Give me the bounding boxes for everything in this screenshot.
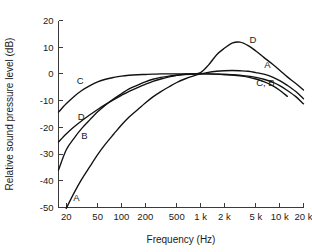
- x-tick-label: 10 k: [271, 211, 289, 222]
- curve-a: [66, 70, 303, 208]
- y-tick-label: -10: [40, 95, 54, 106]
- x-tick-label: 5 k: [250, 211, 263, 222]
- x-axis-ticks: [66, 203, 303, 208]
- curve-d: [59, 42, 304, 142]
- curve-label-d: D: [250, 34, 257, 45]
- y-tick-label: -40: [40, 175, 54, 186]
- y-tick-label: -20: [40, 122, 54, 133]
- curve-label-b: B: [81, 130, 87, 141]
- x-axis-tick-labels: 20501002005001 k2 k5 k10 k20 k: [61, 211, 312, 222]
- curve-label-d: D: [78, 111, 85, 122]
- curve-b: [59, 74, 288, 170]
- curve-label-c: C: [77, 75, 84, 86]
- curve-label-a: A: [264, 59, 271, 70]
- x-tick-label: 2 k: [218, 211, 231, 222]
- x-tick-label: 200: [137, 211, 153, 222]
- x-axis-title: Frequency (Hz): [147, 234, 216, 245]
- y-tick-label: -50: [40, 202, 54, 213]
- curve-label-a: A: [73, 192, 80, 203]
- chart-svg: 20100-10-20-30-40-50 20501002005001 k2 k…: [0, 0, 312, 252]
- y-axis-tick-labels: 20100-10-20-30-40-50: [40, 15, 54, 213]
- curve-labels-group: CDBADAC, B: [73, 34, 274, 203]
- curve-label-cb: C, B: [256, 77, 274, 88]
- x-tick-label: 50: [92, 211, 103, 222]
- weighting-curves-chart: 20100-10-20-30-40-50 20501002005001 k2 k…: [0, 0, 312, 252]
- y-tick-label: 20: [43, 15, 54, 26]
- x-tick-label: 100: [114, 211, 130, 222]
- y-axis-ticks: [59, 21, 64, 208]
- x-tick-label: 1 k: [194, 211, 207, 222]
- x-tick-label: 20 k: [295, 211, 312, 222]
- x-tick-label: 20: [61, 211, 72, 222]
- x-tick-label: 500: [169, 211, 185, 222]
- y-tick-label: -30: [40, 148, 54, 159]
- y-axis-title: Relative sound pressure level (dB): [4, 38, 15, 191]
- y-tick-label: 10: [43, 42, 54, 53]
- y-tick-label: 0: [48, 68, 53, 79]
